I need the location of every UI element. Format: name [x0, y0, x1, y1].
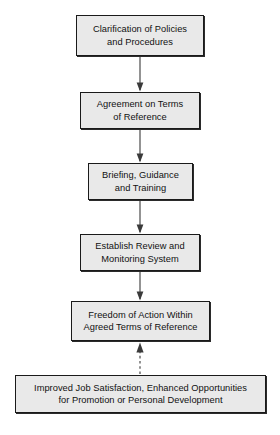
- flow-node-line2: and Procedures: [107, 37, 173, 47]
- flow-node-label: Briefing, Guidanceand Training: [93, 169, 188, 193]
- flowchart-diagram: Clarification of Policiesand Procedures …: [0, 0, 280, 435]
- flow-node-freedom-of-action[interactable]: Freedom of Action WithinAgreed Terms of …: [71, 301, 210, 341]
- flow-node-line2: Monitoring System: [101, 254, 178, 264]
- flow-node-label: Agreement on Termsof Reference: [85, 98, 195, 122]
- arrow-briefing-to-establish: [137, 201, 144, 234]
- flow-node-improved-job-satisfaction[interactable]: Improved Job Satisfaction, Enhanced Oppo…: [15, 375, 266, 413]
- flow-node-line1: Freedom of Action Within: [88, 310, 192, 320]
- arrow-improved-to-freedom-dashed: [136, 343, 143, 375]
- flow-node-line1: Agreement on Terms: [97, 99, 183, 109]
- flowchart-connectors: [0, 0, 280, 435]
- flow-node-line2: and Training: [115, 183, 166, 193]
- arrow-clarification-to-agreement: [137, 57, 144, 92]
- flow-node-line1: Clarification of Policies: [93, 24, 187, 34]
- arrow-agreement-to-briefing: [137, 130, 144, 163]
- flow-node-line1: Briefing, Guidance: [102, 170, 179, 180]
- flow-node-line1: Establish Review and: [95, 241, 184, 251]
- flow-node-label: Clarification of Policiesand Procedures: [81, 23, 199, 47]
- arrow-establish-to-freedom: [137, 272, 144, 301]
- flow-node-label: Establish Review andMonitoring System: [85, 240, 195, 264]
- flow-node-label: Improved Job Satisfaction, Enhanced Oppo…: [20, 382, 261, 406]
- flow-node-label: Freedom of Action WithinAgreed Terms of …: [76, 309, 205, 333]
- flow-node-establish-review-monitoring[interactable]: Establish Review andMonitoring System: [80, 234, 200, 271]
- flow-node-briefing-guidance-training[interactable]: Briefing, Guidanceand Training: [88, 163, 193, 200]
- flow-node-line2: Agreed Terms of Reference: [83, 322, 197, 332]
- flow-node-clarification-of-policies[interactable]: Clarification of Policiesand Procedures: [76, 15, 204, 56]
- flow-node-line2: of Reference: [113, 112, 166, 122]
- flow-node-line1: Improved Job Satisfaction, Enhanced Oppo…: [34, 383, 247, 393]
- flow-node-agreement-on-terms[interactable]: Agreement on Termsof Reference: [80, 92, 200, 129]
- flow-node-line2: for Promotion or Personal Development: [58, 395, 222, 405]
